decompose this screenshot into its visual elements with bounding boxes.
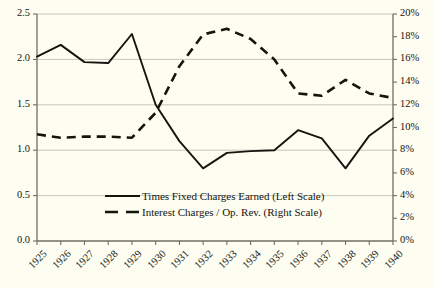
y-axis-left-tick-label: 2.5 [0, 8, 30, 19]
y-axis-right-tick-label: 8% [400, 144, 414, 155]
y-axis-right-tick-label: 0% [400, 235, 414, 246]
y-axis-left-tick-label: 1.5 [0, 99, 30, 110]
y-axis-right-tick-label: 2% [400, 212, 414, 223]
y-axis-right-tick-label: 10% [400, 122, 419, 133]
legend-label-times-fixed-charges: Times Fixed Charges Earned (Left Scale) [142, 191, 324, 202]
y-axis-left-tick-label: 0.5 [0, 190, 30, 201]
chart-plot-area [0, 0, 434, 288]
y-axis-right-tick-label: 20% [400, 8, 419, 19]
y-axis-left-tick-label: 2.0 [0, 53, 30, 64]
series-line-0 [37, 34, 393, 168]
series-line-1 [37, 29, 393, 138]
y-axis-left-tick-label: 0.0 [0, 235, 30, 246]
legend-label-interest-charges: Interest Charges / Op. Rev. (Right Scale… [142, 207, 322, 218]
y-axis-right-tick-label: 12% [400, 99, 419, 110]
y-axis-right-tick-label: 16% [400, 53, 419, 64]
y-axis-right-tick-label: 6% [400, 167, 414, 178]
y-axis-right-tick-label: 4% [400, 190, 414, 201]
y-axis-left-tick-label: 1.0 [0, 144, 30, 155]
y-axis-right-tick-label: 18% [400, 31, 419, 42]
chart-container: 0.00.51.01.52.02.50%2%4%6%8%10%12%14%16%… [0, 0, 434, 288]
y-axis-right-tick-label: 14% [400, 76, 419, 87]
